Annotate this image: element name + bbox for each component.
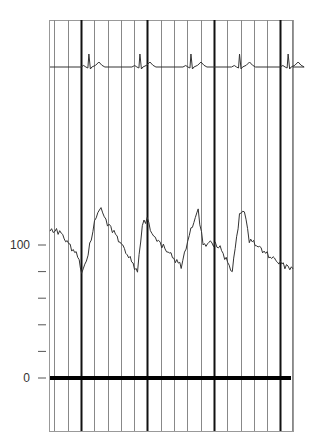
plot-frame xyxy=(50,21,294,432)
vertical-grid xyxy=(55,20,293,431)
hemodynamic-chart: 100 0 xyxy=(0,0,309,444)
ecg-trace xyxy=(50,54,304,69)
y-tick-label-0: 0 xyxy=(23,371,30,385)
y-tick-label-100: 100 xyxy=(10,238,30,252)
arterial-pressure-trace xyxy=(50,208,293,274)
y-axis-ticks xyxy=(38,245,46,378)
